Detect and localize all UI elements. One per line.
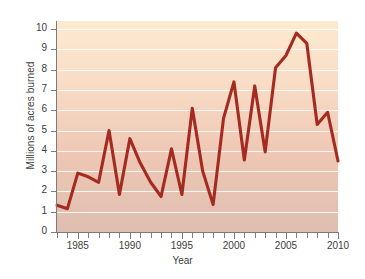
y-tick-mark xyxy=(51,49,56,50)
y-tick-mark xyxy=(51,131,56,132)
x-tick-mark xyxy=(119,233,120,238)
y-tick-label: 1 xyxy=(27,205,47,216)
y-tick-mark xyxy=(51,70,56,71)
x-tick-mark xyxy=(338,233,339,239)
x-tick-mark xyxy=(234,233,235,239)
x-axis-title: Year xyxy=(0,255,365,266)
x-tick-mark xyxy=(244,233,245,238)
x-tick-mark xyxy=(182,233,183,239)
y-tick-mark xyxy=(51,90,56,91)
y-tick-mark xyxy=(51,212,56,213)
x-tick-label: 2005 xyxy=(264,240,308,251)
x-tick-mark xyxy=(203,233,204,238)
y-tick-label: 4 xyxy=(27,144,47,155)
x-tick-mark xyxy=(192,233,193,238)
x-tick-mark xyxy=(328,233,329,238)
wildfire-acres-burned-chart: Millions of acres burned 012345678910 19… xyxy=(0,0,365,279)
y-tick-mark xyxy=(51,29,56,30)
y-tick-label: 8 xyxy=(27,63,47,74)
series-line-acres-burned xyxy=(57,33,338,209)
x-tick-label: 1995 xyxy=(160,240,204,251)
x-tick-mark xyxy=(161,233,162,238)
x-tick-mark xyxy=(78,233,79,239)
x-tick-mark xyxy=(317,233,318,238)
y-tick-mark xyxy=(51,191,56,192)
x-tick-mark xyxy=(224,233,225,238)
x-tick-mark xyxy=(88,233,89,238)
y-tick-label: 5 xyxy=(27,124,47,135)
x-tick-mark xyxy=(171,233,172,238)
x-tick-mark xyxy=(296,233,297,238)
x-tick-label: 2010 xyxy=(316,240,360,251)
x-tick-mark xyxy=(265,233,266,238)
x-tick-mark xyxy=(255,233,256,238)
x-tick-mark xyxy=(151,233,152,238)
y-tick-label: 7 xyxy=(27,83,47,94)
x-tick-mark xyxy=(57,233,58,238)
x-tick-label: 1985 xyxy=(56,240,100,251)
x-tick-label: 2000 xyxy=(212,240,256,251)
y-tick-mark xyxy=(51,232,56,233)
plot-area xyxy=(57,21,338,232)
x-tick-mark xyxy=(286,233,287,239)
data-line-svg xyxy=(57,21,338,232)
x-tick-mark xyxy=(140,233,141,238)
x-tick-mark xyxy=(109,233,110,238)
y-tick-mark xyxy=(51,110,56,111)
x-tick-mark xyxy=(130,233,131,239)
y-tick-mark xyxy=(51,151,56,152)
x-tick-mark xyxy=(307,233,308,238)
y-tick-label: 10 xyxy=(27,22,47,33)
y-axis-spine xyxy=(56,21,57,233)
y-tick-label: 2 xyxy=(27,184,47,195)
x-tick-mark xyxy=(213,233,214,238)
y-tick-label: 0 xyxy=(27,225,47,236)
x-tick-mark xyxy=(67,233,68,238)
y-tick-label: 9 xyxy=(27,42,47,53)
x-tick-mark xyxy=(276,233,277,238)
x-tick-label: 1990 xyxy=(108,240,152,251)
x-tick-mark xyxy=(99,233,100,238)
y-tick-mark xyxy=(51,171,56,172)
y-tick-label: 6 xyxy=(27,103,47,114)
y-tick-label: 3 xyxy=(27,164,47,175)
